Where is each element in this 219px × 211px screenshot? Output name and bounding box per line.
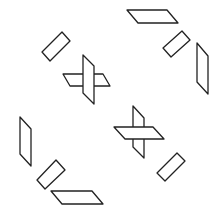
top-parallelogram (127, 10, 178, 23)
cross1-vertical (83, 55, 94, 104)
shapes-svg (0, 0, 219, 211)
left-vertical-parallelogram (20, 117, 31, 166)
bottom-left-rectangle (37, 160, 65, 189)
geometric-figure (0, 0, 219, 211)
top-right-rectangle (163, 31, 190, 57)
top-left-rectangle (42, 32, 70, 61)
cross2-horizontal (114, 127, 164, 139)
right-vertical-parallelogram (197, 43, 208, 94)
bottom-parallelogram (51, 191, 103, 204)
bottom-right-rectangle (157, 153, 185, 181)
